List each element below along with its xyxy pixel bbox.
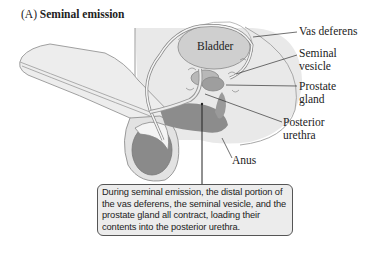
prostate-gland [202, 77, 224, 91]
label-prostate-line2: gland [299, 93, 325, 106]
callout-text: During seminal emission, the distal port… [102, 187, 286, 232]
label-posterior-urethra-line2: urethra [283, 129, 316, 142]
label-prostate-line1: Prostate [299, 80, 336, 93]
explanation-callout: During seminal emission, the distal port… [97, 184, 293, 236]
label-bladder: Bladder [197, 40, 233, 52]
label-vas-deferens: Vas deferens [299, 25, 357, 38]
label-seminal-vesicle-line2: vesicle [299, 60, 331, 73]
label-posterior-urethra-line1: Posterior [283, 116, 325, 129]
label-seminal-vesicle-line1: Seminal [299, 47, 337, 60]
label-anus: Anus [232, 154, 256, 167]
